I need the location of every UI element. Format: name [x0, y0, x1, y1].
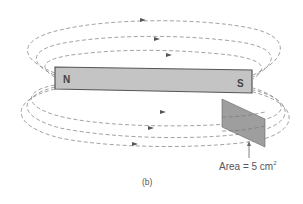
- north-pole-label: N: [63, 74, 70, 85]
- bar-magnet: [55, 67, 252, 93]
- field-arrow-icon: [148, 126, 154, 130]
- area-label-text: Area = 5 cm: [219, 161, 273, 172]
- upper-field-arrows: [140, 18, 172, 57]
- lower-field-arrows: [132, 110, 166, 146]
- field-arrow-icon: [154, 37, 160, 41]
- area-plate: [222, 99, 265, 147]
- area-label-exponent: 2: [273, 160, 276, 166]
- field-arrow-icon: [166, 53, 172, 57]
- arrow-up-icon: [247, 141, 251, 158]
- south-pole-label: S: [237, 78, 244, 89]
- figure-caption: (b): [142, 177, 152, 187]
- magnet-field-diagram: [0, 0, 303, 204]
- area-label: Area = 5 cm2: [219, 160, 277, 172]
- field-arrow-icon: [160, 110, 166, 114]
- field-arrow-icon: [132, 142, 138, 146]
- field-arrow-icon: [140, 18, 146, 22]
